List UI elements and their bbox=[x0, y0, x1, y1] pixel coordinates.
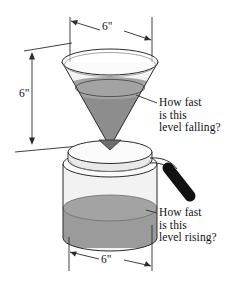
cone-rim-outer bbox=[62, 49, 158, 75]
witness-line-top bbox=[24, 43, 72, 51]
callout-rising-line-1: How fast bbox=[159, 206, 217, 219]
arrowhead-down-left bbox=[29, 138, 35, 146]
callout-rising-line-3: level rising? bbox=[159, 231, 217, 244]
arrowhead-left-bottom bbox=[70, 251, 77, 256]
related-rates-diagram: 6" 6" 6" How fast is this level falling?… bbox=[0, 0, 230, 283]
callout-falling-line-2: is this bbox=[159, 109, 221, 122]
handle-grip bbox=[168, 168, 190, 196]
callout-rising-line-2: is this bbox=[159, 219, 217, 232]
dimension-label-cone-height: 6" bbox=[19, 87, 29, 99]
callout-level-rising: How fast is this level rising? bbox=[159, 206, 217, 244]
arrowhead-up-left bbox=[29, 52, 35, 60]
arrowhead-right-bottom bbox=[144, 261, 151, 266]
callout-falling-line-3: level falling? bbox=[159, 121, 221, 134]
leader-line-falling bbox=[136, 95, 157, 103]
callout-falling-line-1: How fast bbox=[159, 96, 221, 109]
arrowhead-right-top bbox=[144, 35, 151, 40]
pot-liquid bbox=[62, 195, 158, 248]
arrowhead-left-top bbox=[71, 20, 78, 26]
dimension-label-cone-diameter: 6" bbox=[102, 20, 112, 32]
dimension-label-pot-diameter: 6" bbox=[101, 253, 111, 265]
callout-level-falling: How fast is this level falling? bbox=[159, 96, 221, 134]
